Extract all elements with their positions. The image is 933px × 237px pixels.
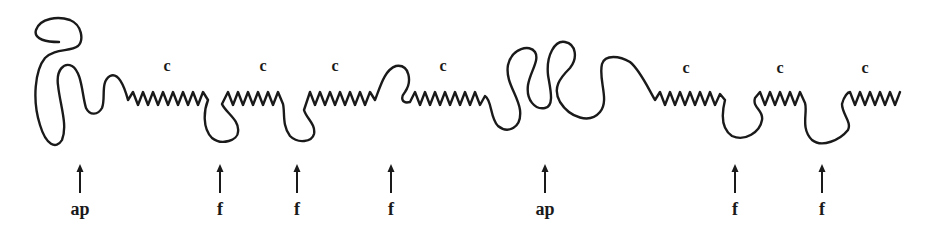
helix-label: c bbox=[776, 60, 783, 76]
helix-label: c bbox=[163, 58, 170, 74]
arrow-icon bbox=[732, 164, 739, 193]
marker-label-f: f bbox=[294, 200, 300, 218]
arrow-icon bbox=[388, 164, 395, 193]
marker-label-f: f bbox=[819, 200, 825, 218]
polypeptide-chain bbox=[35, 18, 900, 145]
marker-label-f: f bbox=[388, 200, 394, 218]
arrow-icon bbox=[819, 164, 826, 193]
marker-label-f: f bbox=[217, 200, 223, 218]
marker-label-ap: ap bbox=[70, 200, 89, 218]
helix-label: c bbox=[331, 58, 338, 74]
protein-chain-diagram: c c c c c c c ap f f f ap f f bbox=[0, 0, 933, 237]
arrow-icon bbox=[542, 164, 549, 193]
arrow-icon bbox=[294, 164, 301, 193]
marker-label-f: f bbox=[732, 200, 738, 218]
chain-svg bbox=[0, 0, 933, 237]
helix-label: c bbox=[682, 60, 689, 76]
marker-arrows bbox=[77, 164, 826, 193]
arrow-icon bbox=[77, 164, 84, 193]
helix-label: c bbox=[861, 60, 868, 76]
helix-label: c bbox=[259, 58, 266, 74]
arrow-icon bbox=[217, 164, 224, 193]
helix-label: c bbox=[439, 58, 446, 74]
marker-label-ap: ap bbox=[535, 200, 554, 218]
